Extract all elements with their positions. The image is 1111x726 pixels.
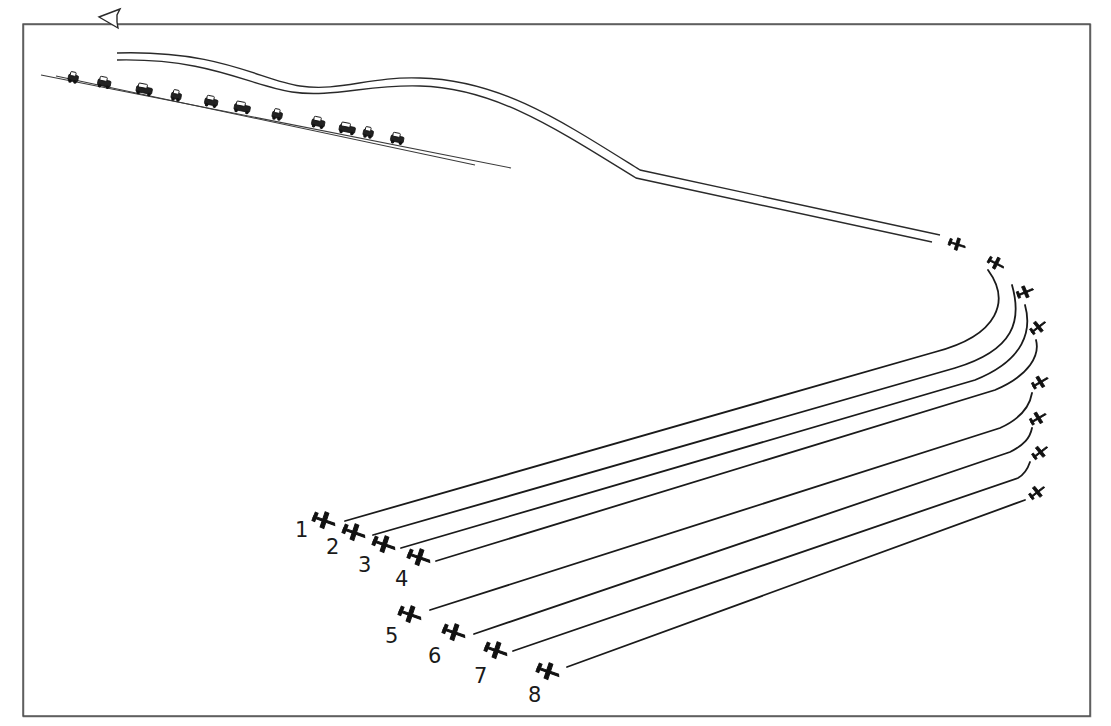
aircraft-icon	[1030, 372, 1051, 391]
aircraft-number-label: 4	[395, 567, 408, 591]
attack-track-7	[513, 462, 1030, 651]
aircraft-icon	[947, 236, 967, 253]
aircraft-6-icon	[441, 620, 468, 643]
aircraft-3-icon	[371, 532, 398, 555]
egress-path-inner-line	[117, 60, 932, 242]
road-edge-line	[56, 76, 475, 165]
attack-track-3	[401, 305, 1027, 548]
aircraft-number-label: 6	[428, 644, 441, 668]
vehicle-icon	[311, 116, 326, 130]
aircraft-4-icon	[406, 545, 433, 568]
aircraft-number-label: 8	[528, 683, 541, 707]
aircraft-number-labels: 12345678	[295, 518, 541, 707]
aircraft-8-icon	[535, 659, 562, 682]
attack-track-1	[345, 270, 999, 521]
vehicle-icon	[204, 95, 219, 109]
egress-flight-path	[99, 9, 940, 242]
aircraft-icon	[1030, 442, 1051, 462]
aircraft-number-label: 1	[295, 518, 308, 542]
diagram-frame	[23, 24, 1091, 717]
frame-border	[23, 24, 1090, 716]
aircraft-icon	[1015, 283, 1035, 300]
aircraft-2-icon	[341, 520, 368, 543]
aircraft-icon	[1028, 317, 1049, 337]
attack-tracks	[345, 270, 1037, 667]
aircraft-7-icon	[483, 638, 510, 661]
aircraft-number-label: 2	[326, 535, 339, 559]
aircraft-icon	[1027, 482, 1048, 502]
frame-border-shadow	[24, 25, 1091, 717]
vehicle-icon	[390, 132, 405, 146]
attack-track-6	[474, 428, 1032, 634]
vehicle-icon	[233, 101, 251, 115]
aircraft-number-label: 7	[474, 664, 487, 688]
vehicle-convoy	[67, 71, 404, 145]
formation-attack-diagram: 12345678	[0, 0, 1111, 726]
aircraft-number-label: 3	[358, 553, 371, 577]
vehicle-icon	[362, 126, 374, 139]
egress-path-outer-line	[117, 53, 940, 235]
aircraft-icon	[1028, 408, 1049, 427]
aircraft-1-icon	[311, 508, 338, 531]
aircraft-5-icon	[397, 602, 424, 625]
vehicle-icon	[271, 108, 283, 121]
vehicle-icon	[338, 122, 356, 136]
attack-track-5	[430, 393, 1032, 610]
aircraft-number-label: 5	[385, 624, 398, 648]
attack-track-2	[373, 285, 1016, 535]
vehicle-icon	[170, 89, 182, 102]
